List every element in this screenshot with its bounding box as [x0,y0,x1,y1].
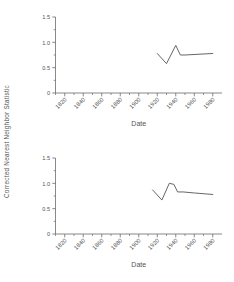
x-tick-label: 1840 [73,96,86,109]
y-tick-label: 1.0 [42,40,50,46]
x-axis-label: Date [131,120,146,127]
x-tick-label: 1940 [165,96,178,109]
y-tick-label: 0.5 [42,206,50,212]
y-tick-label: 0 [47,90,50,96]
chart-svg-bottom: 00.51.01.5182018401860188019001920194019… [0,141,234,282]
x-axis-label: Date [131,261,146,268]
y-tick-label: 1.5 [42,155,50,161]
x-tick-label: 1820 [54,96,67,109]
figure-two-panel-line-charts: Corrected Nearest Neighbor Statistic 00.… [0,0,234,282]
axis-spines [56,158,223,234]
x-tick-label: 1960 [184,96,197,109]
x-tick-label: 1980 [202,237,215,250]
y-tick-label: 0 [47,231,50,237]
y-tick-label: 0.5 [42,65,50,71]
data-series-line [153,183,213,200]
x-tick-label: 1960 [184,237,197,250]
x-tick-label: 1900 [128,96,141,109]
x-tick-label: 1980 [202,96,215,109]
x-tick-label: 1920 [147,96,160,109]
x-tick-label: 1880 [110,96,123,109]
x-tick-label: 1840 [73,237,86,250]
y-tick-label: 1.5 [42,14,50,20]
chart-panel-top: 00.51.01.5182018401860188019001920194019… [0,0,234,141]
x-tick-label: 1860 [91,237,104,250]
x-tick-label: 1860 [91,96,104,109]
x-tick-label: 1920 [147,237,160,250]
x-tick-label: 1880 [110,237,123,250]
y-tick-label: 1.0 [42,181,50,187]
chart-panel-bottom: 00.51.01.5182018401860188019001920194019… [0,141,234,282]
axis-spines [56,17,223,93]
chart-svg-top: 00.51.01.5182018401860188019001920194019… [0,0,234,141]
x-tick-label: 1900 [128,237,141,250]
data-series-line [157,45,213,63]
x-tick-label: 1940 [165,237,178,250]
x-tick-label: 1820 [54,237,67,250]
